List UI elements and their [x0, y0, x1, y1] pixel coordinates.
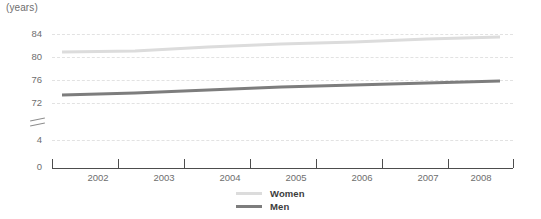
gridline-84: [52, 34, 513, 35]
gridline-4: [52, 140, 513, 141]
y-tick-label-4: 4: [14, 135, 42, 145]
legend-label-women: Women: [270, 188, 305, 199]
y-axis-unit-label: (years): [6, 2, 38, 13]
y-tick-label-0: 0: [14, 162, 42, 172]
series-line-men: [62, 81, 500, 95]
x-tick-mark-1: [118, 159, 119, 168]
y-axis-break-icon: [30, 118, 45, 128]
y-tick-label-80: 80: [14, 52, 42, 62]
plot-area: [0, 0, 541, 219]
x-tick-label-2006: 2006: [332, 172, 392, 183]
x-tick-mark-5: [382, 159, 383, 168]
x-tick-mark-4: [316, 159, 317, 168]
x-tick-label-2005: 2005: [266, 172, 326, 183]
y-tick-label-76: 76: [14, 75, 42, 85]
x-tick-mark-3: [250, 159, 251, 168]
x-tick-label-2008: 2008: [451, 172, 511, 183]
x-tick-label-2004: 2004: [200, 172, 260, 183]
gridline-76: [52, 80, 513, 81]
x-tick-mark-2: [184, 159, 185, 168]
legend-item-men: Men: [236, 201, 305, 212]
life-expectancy-line-chart: (years) 84 80 76 72 4 0 2002 2003 2004 2…: [0, 0, 541, 219]
y-tick-label-72: 72: [14, 98, 42, 108]
x-tick-mark-0: [52, 159, 53, 168]
x-tick-label-2003: 2003: [134, 172, 194, 183]
legend-swatch-men-icon: [236, 205, 262, 208]
gridline-72: [52, 103, 513, 104]
legend-item-women: Women: [236, 188, 305, 199]
legend-label-men: Men: [270, 201, 289, 212]
y-tick-label-84: 84: [14, 29, 42, 39]
chart-legend: Women Men: [236, 188, 305, 214]
x-tick-mark-6: [448, 159, 449, 168]
legend-swatch-women-icon: [236, 192, 262, 195]
x-tick-mark-7: [513, 159, 514, 168]
series-line-women: [62, 37, 500, 52]
x-tick-label-2007: 2007: [398, 172, 458, 183]
x-tick-label-2002: 2002: [68, 172, 128, 183]
x-axis-line: [52, 168, 513, 169]
gridline-80: [52, 57, 513, 58]
